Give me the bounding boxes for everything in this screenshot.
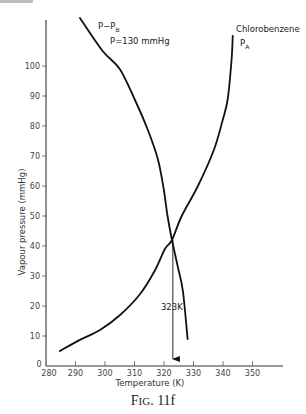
label-chlorobenzene: Chlorobenzene xyxy=(236,24,300,34)
y-tick-label: 0 xyxy=(36,360,41,369)
y-tick-label: 70 xyxy=(30,152,40,161)
x-tick-label: 350 xyxy=(245,369,260,378)
caption-smallcaps: IG xyxy=(139,395,151,407)
x-tick-label: 320 xyxy=(156,369,171,378)
label-pa: PA xyxy=(240,38,250,50)
y-tick-label: 100 xyxy=(25,62,40,71)
y-axis-title: Vapour pressure (mmHg) xyxy=(17,169,27,276)
x-axis-title: Temperature (K) xyxy=(115,378,185,388)
figure-caption: FIG. 11f xyxy=(0,393,306,409)
y-tick-label: 30 xyxy=(30,272,40,281)
y-tick-label: 40 xyxy=(30,242,40,251)
x-tick-label: 340 xyxy=(215,369,230,378)
caption-suffix: . 11f xyxy=(150,393,175,408)
x-tick-label: 330 xyxy=(186,369,201,378)
caption-prefix: F xyxy=(131,393,139,408)
annotation-323k: 323K xyxy=(161,302,183,312)
y-tick-label: 20 xyxy=(30,302,40,311)
x-tick-label: 280 xyxy=(41,369,56,378)
curve-chlorobenzene xyxy=(60,36,233,351)
x-tick-label: 290 xyxy=(68,369,83,378)
y-tick-label: 10 xyxy=(30,332,40,341)
x-tick-label: 310 xyxy=(127,369,142,378)
label-total-pressure: P=130 mmHg xyxy=(110,36,170,46)
y-tick-label: 90 xyxy=(30,92,40,101)
y-tick-label: 80 xyxy=(30,122,40,131)
curve-p-minus-pb xyxy=(80,18,188,339)
y-tick-label: 50 xyxy=(30,212,40,221)
x-tick-label: 300 xyxy=(97,369,112,378)
curves xyxy=(60,18,233,351)
y-tick-label: 60 xyxy=(30,182,40,191)
label-p-minus-pb: P−PB xyxy=(98,21,120,33)
vapour-pressure-chart: 0102030405060708090100280290300310320330… xyxy=(0,0,306,414)
labels: Temperature (K)Vapour pressure (mmHg)323… xyxy=(17,21,300,388)
